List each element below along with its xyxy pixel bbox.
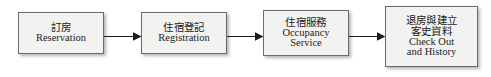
process-node-registration[interactable]: 住宿登記 Registration (141, 12, 227, 54)
node-label-roman-line2: and History (407, 47, 456, 58)
connector-arrow-registration-to-occupancy (227, 31, 264, 42)
node-label-roman: Registration (158, 33, 209, 44)
process-flow-diagram: 訂房 Reservation 住宿登記 Registration 住宿服務 Oc… (0, 0, 491, 77)
node-label-roman-line2: Service (290, 38, 322, 49)
process-node-reservation[interactable]: 訂房 Reservation (18, 12, 104, 54)
connector-arrow-reservation-to-registration (104, 31, 142, 42)
node-label-roman: Reservation (36, 33, 86, 44)
node-label-cjk-line2: 客史資料 (411, 26, 453, 37)
connector-arrow-occupancy-to-checkout (349, 31, 386, 42)
process-node-checkout-and-history[interactable]: 退房與建立 客史資料 Check Out and History (385, 6, 478, 67)
process-node-occupancy-service[interactable]: 住宿服務 Occupancy Service (263, 10, 349, 56)
